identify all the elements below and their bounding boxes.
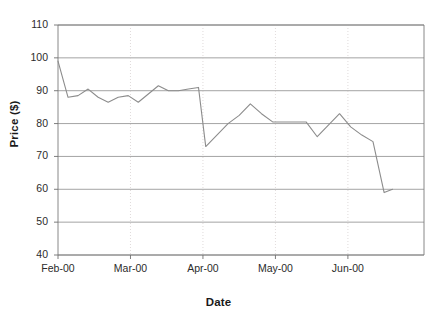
- price-series-line: [58, 61, 393, 192]
- axis-tick-marks: [54, 25, 348, 259]
- horizontal-gridlines: [58, 25, 424, 255]
- price-line-chart: Price ($) Date 110100908070605040 Feb-00…: [0, 0, 437, 318]
- plot-frame: [58, 25, 424, 255]
- plot-area: [0, 0, 437, 318]
- vertical-gridlines: [130, 25, 347, 255]
